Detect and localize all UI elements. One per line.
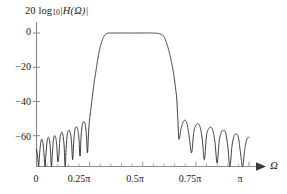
x-tick-label-0: 0 — [22, 174, 50, 184]
y-axis-title-prefix: 20 log — [25, 5, 52, 16]
x-axis-arrow-icon — [256, 162, 266, 171]
y-tick-label-minus20: −20 — [0, 62, 31, 72]
y-axis-title-subscript: 10 — [52, 8, 60, 17]
x-tick-label-pi: π — [228, 174, 252, 184]
x-tick-label-quarter-pi: 0.25π — [57, 174, 101, 184]
y-axis-title: 20 log10|H(Ω)| — [25, 6, 88, 17]
y-tick-label-minus60: −60 — [0, 132, 31, 142]
y-tick-label-minus40: −40 — [0, 97, 31, 107]
x-tick-label-three-quarter-pi: 0.75π — [168, 174, 212, 184]
y-axis-title-suffix: |H(Ω)| — [60, 5, 89, 16]
x-tick-label-half-pi: 0.5π — [113, 174, 157, 184]
plot-canvas — [0, 0, 287, 194]
magnitude-response-figure: 20 log10|H(Ω)| 0 −20 −40 −60 0 0.25π 0.5… — [0, 0, 287, 194]
y-tick-label-0: 0 — [0, 27, 31, 37]
magnitude-response-curve — [37, 33, 250, 167]
x-axis-name: Ω — [270, 160, 278, 171]
